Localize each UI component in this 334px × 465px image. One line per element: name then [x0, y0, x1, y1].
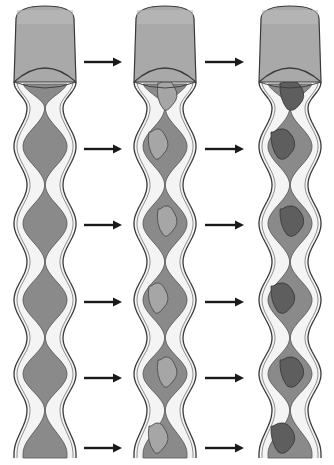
right-arrow-icon: [84, 221, 122, 230]
right-arrow-icon: [205, 374, 244, 383]
right-arrow-icon: [84, 444, 122, 453]
peristalsis-diagram: [0, 0, 334, 465]
right-arrow-icon: [84, 298, 122, 307]
tube-stage-3: [259, 6, 321, 458]
right-arrow-icon: [84, 58, 122, 67]
right-arrow-icon: [84, 374, 122, 383]
tube-stage-1: [14, 6, 76, 458]
right-arrow-icon: [205, 58, 244, 67]
right-arrow-icon: [84, 145, 122, 154]
diagram-canvas: [0, 0, 334, 465]
tube-stage-2: [134, 6, 196, 458]
right-arrow-icon: [205, 145, 244, 154]
right-arrow-icon: [205, 298, 244, 307]
right-arrow-icon: [205, 444, 244, 453]
right-arrow-icon: [205, 221, 244, 230]
